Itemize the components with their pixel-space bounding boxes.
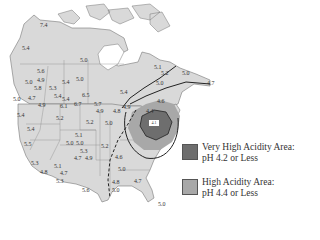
ph-value-label: 4.6 xyxy=(115,154,123,160)
ph-value-label: 5.4 xyxy=(120,89,128,95)
high-line2: pH 4.4 or Less xyxy=(202,188,274,199)
ph-value-label: 4.7 xyxy=(207,80,215,86)
ph-value-label: 5.6 xyxy=(37,68,45,74)
ph-value-label: 5.0 xyxy=(76,140,84,146)
ph-value-label: 4.6 xyxy=(157,98,165,104)
ph-value-label: 4.8 xyxy=(113,108,121,114)
ph-value-label: 4.7 xyxy=(60,170,68,176)
ph-value-label: 4.9 xyxy=(38,102,46,108)
ph-value-label: 5.0 xyxy=(25,79,33,85)
ph-value-label: 5.3 xyxy=(31,160,39,166)
high-label: High Acidity Area: pH 4.4 or Less xyxy=(202,177,274,199)
ph-value-label: 6.1 xyxy=(60,103,68,109)
max-acidity-tag: 4.1 xyxy=(149,120,159,126)
ph-value-label: 5.8 xyxy=(34,85,42,91)
ph-value-label: 5.4 xyxy=(62,79,70,85)
ph-value-label: 5.2 xyxy=(101,143,109,149)
ph-value-label: 5.4 xyxy=(22,45,30,51)
ph-value-label: 6.5 xyxy=(82,92,90,98)
ph-value-label: 5.0 xyxy=(105,120,113,126)
very-high-line2: pH 4.2 or Less xyxy=(202,153,295,164)
ph-value-label: 4.7 xyxy=(28,95,36,101)
ph-value-label: 4.8 xyxy=(112,179,120,185)
very-high-label: Very High Acidity Area: pH 4.2 or Less xyxy=(202,142,295,164)
ph-value-label: 5.0 xyxy=(182,70,190,76)
ph-value-label: 5.6 xyxy=(82,187,90,193)
ph-value-label: 5.4 xyxy=(54,93,62,99)
ph-value-label: 5.0 xyxy=(118,166,126,172)
ph-value-label: 5.2 xyxy=(86,119,94,125)
ph-value-label: 4.9 xyxy=(123,104,131,110)
ph-value-label: 4.9 xyxy=(85,155,93,161)
ph-value-label: 4.7 xyxy=(74,155,82,161)
ph-value-label: 5.1 xyxy=(54,163,62,169)
ph-value-label: 5.0 xyxy=(156,80,164,86)
ph-value-label: 4.9 xyxy=(37,77,45,83)
high-line1: High Acidity Area: xyxy=(202,177,274,188)
ph-value-label: 7.4 xyxy=(40,22,48,28)
very-high-line1: Very High Acidity Area: xyxy=(202,142,295,153)
ph-value-label: 5.0 xyxy=(112,187,120,193)
ph-value-label: 5.7 xyxy=(94,101,102,107)
ph-value-label: 5.5 xyxy=(24,141,32,147)
ph-value-label: 6.7 xyxy=(74,101,82,107)
ph-value-label: 4.9 xyxy=(96,108,104,114)
ph-value-label: 5.4 xyxy=(62,96,70,102)
ph-value-label: 4.7 xyxy=(134,178,142,184)
ph-value-label: 5.0 xyxy=(13,96,21,102)
ph-value-label: 5.2 xyxy=(161,70,169,76)
ph-value-label: 5.3 xyxy=(49,85,57,91)
very-high-swatch xyxy=(182,144,198,160)
ph-value-label: 4.4 xyxy=(146,108,154,114)
ph-value-label: 5.0 xyxy=(158,201,166,207)
ph-value-label: 5.1 xyxy=(75,132,83,138)
high-swatch xyxy=(182,179,198,195)
ph-value-label: 5.2 xyxy=(56,115,64,121)
ph-value-label: 5.3 xyxy=(56,178,64,184)
ph-value-label: 4.8 xyxy=(40,169,48,175)
ph-value-label: 5.4 xyxy=(17,112,25,118)
ph-value-label: 5.3 xyxy=(80,148,88,154)
ph-value-label: 5.0 xyxy=(80,57,88,63)
ph-value-label: 5.0 xyxy=(66,140,74,146)
ph-value-label: 5.4 xyxy=(27,126,35,132)
ph-value-label: 5.0 xyxy=(76,76,84,82)
